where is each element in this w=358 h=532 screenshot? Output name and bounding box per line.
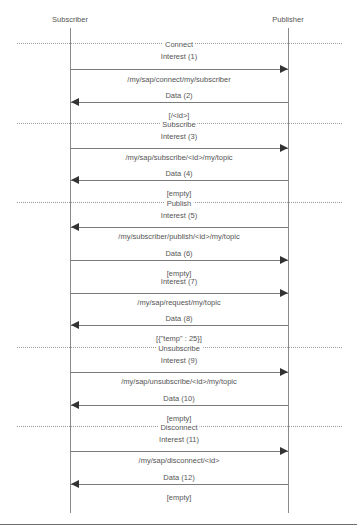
arrow-head-right-icon <box>280 256 288 264</box>
bottom-rule <box>0 524 357 525</box>
message-label: Interest (11) <box>159 435 199 444</box>
arrow-head-left-icon <box>71 321 79 329</box>
message-arrow-line <box>71 372 288 373</box>
section-label-connect: Connect <box>163 40 195 49</box>
arrow-head-left-icon <box>71 480 79 488</box>
actor-label-subscriber: Subscriber <box>52 15 88 24</box>
message-arrow-line <box>71 405 288 406</box>
message-label: Interest (1) <box>161 52 197 61</box>
lifeline-publisher <box>288 28 289 513</box>
message-label: Data (8) <box>165 314 192 323</box>
message-arrow-line <box>71 260 288 261</box>
message-note: [empty] <box>167 414 192 423</box>
arrow-head-left-icon <box>71 401 79 409</box>
message-note: [empty] <box>167 493 192 502</box>
message-label: Interest (7) <box>161 277 197 286</box>
arrow-head-right-icon <box>280 144 288 152</box>
section-label-unsubscribe: Unsubscribe <box>156 344 202 353</box>
message-label: Interest (9) <box>161 356 197 365</box>
message-arrow-line <box>71 227 288 228</box>
message-label: Data (10) <box>163 394 194 403</box>
message-arrow-line <box>71 69 288 70</box>
message-arrow-line <box>71 325 288 326</box>
arrow-head-right-icon <box>280 289 288 297</box>
arrow-head-right-icon <box>280 65 288 73</box>
message-label: Data (4) <box>165 169 192 178</box>
section-label-publish: Publish <box>165 199 194 208</box>
message-label: Data (12) <box>163 473 194 482</box>
message-arrow-line <box>71 451 288 452</box>
message-note: [empty] <box>167 189 192 198</box>
message-note: /my/sap/disconnect/<id> <box>139 456 220 465</box>
arrow-head-left-icon <box>71 176 79 184</box>
section-label-disconnect: Disconnect <box>158 423 199 432</box>
message-arrow-line <box>71 484 288 485</box>
message-arrow-line <box>71 148 288 149</box>
message-label: Interest (3) <box>161 132 197 141</box>
message-arrow-line <box>71 102 288 103</box>
arrow-head-right-icon <box>280 368 288 376</box>
message-note: /my/sap/unsubscribe/<id>/my/topic <box>121 377 236 386</box>
actor-label-publisher: Publisher <box>272 15 303 24</box>
message-arrow-line <box>71 180 288 181</box>
arrow-head-left-icon <box>71 98 79 106</box>
message-label: Data (6) <box>165 249 192 258</box>
message-arrow-line <box>71 293 288 294</box>
message-note: /my/sap/subscribe/<id>/my/topic <box>125 153 232 162</box>
message-note: /my/sap/connect/my/subscriber <box>127 75 230 84</box>
message-note: /my/sap/request/my/topic <box>137 298 220 307</box>
section-label-subscribe: Subscribe <box>160 120 197 129</box>
message-note: [/<id>] <box>169 111 190 120</box>
message-note: /my/subscriber/publish/<id>/my/topic <box>118 232 239 241</box>
message-label: Interest (5) <box>161 211 197 220</box>
arrow-head-left-icon <box>71 223 79 231</box>
message-note: [{"temp" : 25}] <box>156 334 202 343</box>
arrow-head-right-icon <box>280 447 288 455</box>
message-label: Data (2) <box>165 91 192 100</box>
